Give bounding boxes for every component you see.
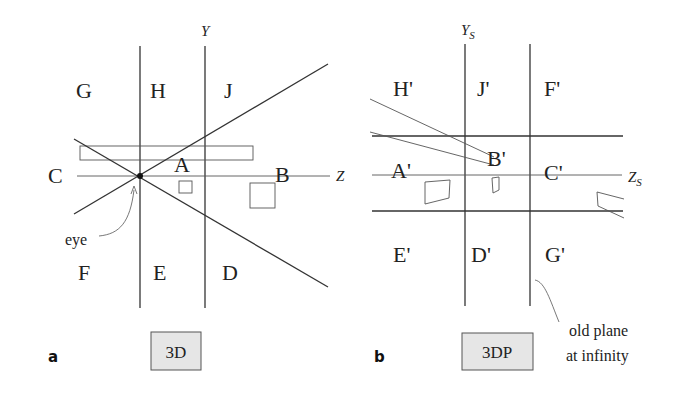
region-g-prime: G' [545, 242, 565, 267]
region-g: G [76, 78, 92, 103]
region-e: E [153, 260, 166, 285]
note-line-2: at infinity [566, 347, 629, 365]
region-j: J [224, 78, 233, 103]
region-f: F [78, 260, 90, 285]
note-line-1: old plane [569, 322, 628, 340]
region-h: H [150, 78, 166, 103]
ys-axis-label: YS [461, 22, 475, 41]
region-e-prime: E' [393, 242, 410, 267]
diagonal-line-ascending [74, 64, 328, 214]
eye-label: eye [65, 231, 87, 249]
panel-b-label: b [374, 348, 385, 366]
panel-b: YS ZS H' J' F' A' B' C' E' D' G' old pla… [370, 22, 642, 370]
z-axis-label: Z [336, 168, 345, 184]
region-a: A [174, 152, 190, 177]
panel-a: Y Z eye G H J C A B F E D a 3D [48, 23, 345, 370]
y-axis-label: Y [201, 23, 211, 39]
figure-canvas: Y Z eye G H J C A B F E D a 3D [0, 0, 695, 400]
zs-axis-label: ZS [628, 169, 642, 188]
eye-point [137, 173, 143, 179]
region-c: C [48, 163, 63, 188]
panel-a-label: a [48, 348, 58, 366]
infinity-pointer-arrow [535, 280, 559, 322]
small-square [179, 181, 192, 193]
3dp-box-label: 3DP [482, 343, 512, 362]
large-square [250, 183, 275, 208]
region-h-prime: H' [393, 76, 413, 101]
region-b: B [275, 162, 290, 187]
region-j-prime: J' [477, 76, 490, 101]
quadrilateral-left [425, 180, 450, 204]
region-f-prime: F' [544, 76, 560, 101]
quadrilateral-small [492, 177, 499, 193]
quadrilateral-right-partial [597, 192, 624, 218]
3d-box-label: 3D [166, 343, 187, 362]
region-a-prime: A' [391, 158, 411, 183]
region-b-prime: B' [487, 146, 506, 171]
region-c-prime: C' [544, 160, 563, 185]
diagonal-line-descending [74, 139, 328, 287]
region-d-prime: D' [471, 242, 491, 267]
region-d: D [222, 260, 238, 285]
eye-pointer-arrow [99, 190, 134, 236]
